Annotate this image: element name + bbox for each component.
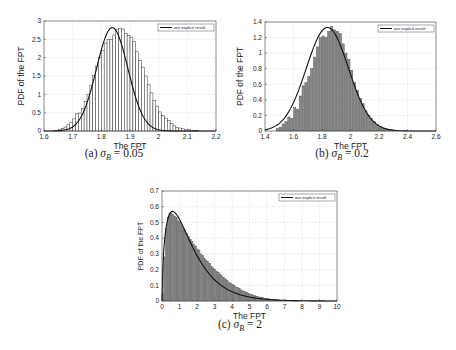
caption-c-suffix: = 2 <box>244 318 262 330</box>
histogram-bar <box>211 266 212 301</box>
histogram-bar <box>174 216 175 301</box>
histogram-bar <box>188 237 189 301</box>
x-tick-label: 1 <box>178 303 182 310</box>
x-tick-label: 1.9 <box>125 133 134 140</box>
y-tick-label: 1.5 <box>32 72 41 79</box>
x-tick-label: 10 <box>333 303 341 310</box>
histogram-bar <box>227 281 228 301</box>
y-tick-label: 1 <box>37 91 41 98</box>
histogram-bar <box>345 53 347 131</box>
histogram-bar <box>107 39 110 131</box>
y-tick-label: 0.5 <box>150 219 159 226</box>
chart-panel-a: 1.61.71.81.922.12.200.511.522.53The FPTP… <box>0 0 228 170</box>
histogram-bar <box>333 30 335 131</box>
y-tick-label: 0.4 <box>253 96 262 103</box>
histogram-bar <box>282 124 284 131</box>
y-tick-label: 0 <box>155 297 159 304</box>
histogram-bar <box>206 260 207 301</box>
histogram-bar <box>159 112 162 131</box>
histogram-bar <box>176 218 177 301</box>
histogram-bar <box>232 285 233 302</box>
histogram-bar <box>170 124 173 131</box>
histogram-bar <box>127 36 130 131</box>
histogram-bar <box>313 57 315 131</box>
histogram-bar <box>230 283 231 301</box>
y-tick-label: 2.5 <box>32 36 41 43</box>
histogram-bar <box>173 126 176 131</box>
histogram-bar <box>305 83 307 131</box>
chart-c-svg: 01234567891000.10.20.30.40.50.60.7The FP… <box>110 170 350 320</box>
histogram-bar <box>331 27 333 131</box>
legend-label: our explicit result <box>174 25 206 30</box>
y-tick-label: 2 <box>37 54 41 61</box>
histogram-bar <box>187 233 188 301</box>
histogram-bar <box>133 42 136 131</box>
y-axis-label: PDF of the FPT <box>16 46 26 105</box>
histogram-bar <box>190 240 191 301</box>
histogram-bar <box>213 268 214 301</box>
histogram-bar <box>208 262 209 301</box>
histogram-bar <box>220 274 221 301</box>
histogram-bar <box>359 98 361 131</box>
y-axis-label: PDF of the FPT <box>137 221 144 270</box>
chart-panel-c: 01234567891000.10.20.30.40.50.60.7The FP… <box>110 170 350 350</box>
histogram-bar <box>141 67 144 131</box>
x-tick-labels: 1.61.71.81.922.12.2 <box>39 133 220 140</box>
histogram-bar <box>124 33 127 131</box>
histogram-bar <box>222 276 223 301</box>
histogram-bar <box>166 229 167 301</box>
histogram-bar <box>113 35 116 131</box>
x-tick-labels: 012345678910 <box>160 303 341 310</box>
histogram-bar <box>291 119 293 131</box>
histogram-bar <box>78 113 81 131</box>
histogram-bar <box>279 127 281 131</box>
y-tick-label: 1.4 <box>253 18 262 25</box>
x-tick-label: 8 <box>300 303 304 310</box>
histogram-bar <box>302 86 304 131</box>
x-tick-label: 3 <box>213 303 217 310</box>
y-tick-labels: 00.511.522.53 <box>32 17 41 134</box>
histogram-bar <box>319 38 321 131</box>
caption-a-prefix: (a) <box>85 147 101 159</box>
histogram-bar <box>96 66 99 131</box>
y-tick-label: 3 <box>37 17 41 24</box>
x-tick-label: 2 <box>157 133 161 140</box>
histogram-bar <box>139 61 142 131</box>
histogram-bar <box>299 96 301 131</box>
x-tick-label: 1.8 <box>97 133 106 140</box>
x-tick-label: 2.6 <box>431 133 440 140</box>
histogram-bar <box>328 31 330 131</box>
histogram-bar <box>164 257 165 301</box>
histogram-bar <box>294 108 296 131</box>
y-tick-label: 0.1 <box>150 282 159 289</box>
x-tick-label: 2.2 <box>211 133 220 140</box>
histogram-bar <box>173 215 174 301</box>
x-tick-label: 9 <box>318 303 322 310</box>
y-tick-labels: 00.10.20.30.40.50.60.7 <box>150 187 159 304</box>
histogram-bar <box>288 117 290 131</box>
histogram-bar <box>308 77 310 132</box>
histogram-bar <box>67 125 70 131</box>
x-tick-labels: 1.41.61.822.22.42.6 <box>260 133 440 140</box>
histogram-bar <box>223 277 224 301</box>
y-tick-label: 0.2 <box>150 266 159 273</box>
histogram-bar <box>365 111 367 131</box>
y-tick-label: 1 <box>258 49 262 56</box>
histogram-bar <box>311 69 313 131</box>
y-tick-label: 0 <box>37 127 41 134</box>
histogram-bar <box>353 83 355 131</box>
x-tick-label: 2.4 <box>403 133 412 140</box>
y-tick-label: 0.5 <box>32 109 41 116</box>
x-tick-label: 4 <box>230 303 234 310</box>
y-tick-label: 0.3 <box>150 250 159 257</box>
histogram-bar <box>316 47 318 131</box>
histogram-bar <box>167 121 170 131</box>
x-tick-label: 2 <box>349 133 353 140</box>
histogram-bar <box>178 221 179 301</box>
caption-c: (c) σB = 2 <box>110 318 370 333</box>
caption-b-prefix: (b) <box>315 147 331 159</box>
histogram-bar <box>229 282 230 301</box>
y-tick-label: 0.2 <box>253 112 262 119</box>
histogram-bar <box>185 230 186 301</box>
histogram-bar <box>202 255 203 301</box>
